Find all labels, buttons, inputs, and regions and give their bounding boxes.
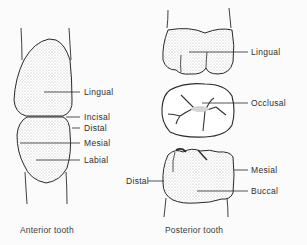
anterior-tooth-illustration (14, 28, 72, 204)
anterior-label-incisal: Incisal (84, 113, 110, 122)
posterior-tooth-illustration (162, 8, 234, 217)
posterior-label-mesial: Mesial (251, 166, 277, 175)
posterior-label-occlusal: Occlusal (251, 99, 286, 108)
diagram-drawing (0, 0, 307, 245)
posterior-label-distal: Distal (126, 177, 149, 186)
anterior-label-mesial: Mesial (84, 139, 110, 148)
anterior-label-distal: Distal (84, 124, 107, 133)
posterior-label-lingual: Lingual (251, 48, 281, 57)
posterior-label-buccal: Buccal (251, 187, 278, 196)
anterior-label-lingual: Lingual (84, 88, 114, 97)
posterior-caption: Posterior tooth (165, 226, 223, 235)
anterior-caption: Anterior tooth (20, 226, 74, 235)
anterior-label-labial: Labial (84, 156, 109, 165)
tooth-surfaces-diagram: Lingual Incisal Distal Mesial Labial Lin… (0, 0, 307, 245)
